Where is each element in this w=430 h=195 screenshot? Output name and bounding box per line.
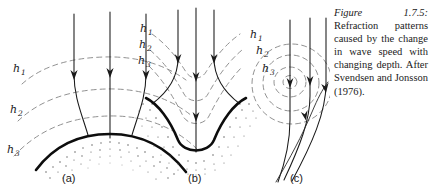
panel-label-b: (b) bbox=[188, 172, 201, 184]
panel-c-arrowheads bbox=[287, 76, 329, 121]
depth-label-h1-subscript: 1 bbox=[258, 34, 263, 43]
depth-label-h1: h bbox=[13, 62, 20, 75]
panel-a-depth-labels: h 1 h 2 h 3 bbox=[7, 62, 26, 158]
depth-label-h3-subscript: 3 bbox=[15, 149, 20, 158]
depth-label-h3: h bbox=[138, 54, 145, 67]
depth-label-h2: h bbox=[10, 103, 17, 116]
wave-ray bbox=[214, 10, 240, 104]
depth-label-h2-subscript: 2 bbox=[146, 44, 152, 53]
panel-label-c: (c) bbox=[290, 172, 303, 184]
figure-number: Figure 1.7.5: bbox=[334, 7, 428, 18]
depth-label-h1: h bbox=[140, 22, 147, 35]
depth-label-h1-subscript: 1 bbox=[21, 68, 26, 77]
depth-label-h3: h bbox=[7, 143, 14, 156]
figure-caption: Figure 1.7.5: Refraction patterns caused… bbox=[334, 6, 428, 98]
ray-arrowhead bbox=[301, 110, 308, 121]
panel-a: h 1 h 2 h 3 (a) bbox=[7, 12, 198, 184]
depth-label-h2-subscript: 2 bbox=[263, 50, 269, 59]
wave-ray bbox=[284, 18, 310, 180]
panel-c-depth-labels: h 1 h 2 h 3 bbox=[250, 28, 275, 77]
seabed-line bbox=[36, 134, 186, 172]
panel-b: h 1 h 2 h 3 (b) bbox=[136, 8, 257, 184]
wave-ray bbox=[292, 18, 326, 181]
depth-label-h3-subscript: 3 bbox=[270, 68, 275, 77]
depth-label-h2-subscript: 2 bbox=[17, 109, 23, 118]
wave-ray bbox=[276, 82, 328, 182]
figure-caption-text: Refraction patterns caused by the change… bbox=[334, 20, 428, 96]
figure-container: h 1 h 2 h 3 (a) bbox=[0, 0, 430, 195]
wave-ray bbox=[74, 14, 88, 135]
depth-label-h1: h bbox=[250, 28, 257, 41]
panel-b-depth-labels: h 1 h 2 h 3 bbox=[138, 22, 153, 69]
diagram-panels: h 1 h 2 h 3 (a) bbox=[0, 0, 330, 195]
depth-label-h2: h bbox=[256, 44, 263, 57]
depth-label-h3: h bbox=[262, 62, 269, 75]
panel-c: h 1 h 2 h 3 (c) bbox=[250, 18, 330, 184]
panel-label-a: (a) bbox=[62, 172, 75, 184]
refraction-diagrams-svg: h 1 h 2 h 3 (a) bbox=[0, 0, 330, 195]
wave-ray bbox=[152, 10, 178, 104]
panel-a-seabed bbox=[36, 134, 186, 180]
panel-c-rays bbox=[276, 18, 328, 182]
depth-label-h2: h bbox=[139, 38, 146, 51]
depth-label-h1-subscript: 1 bbox=[148, 28, 153, 37]
depth-label-h3-subscript: 3 bbox=[146, 60, 151, 69]
